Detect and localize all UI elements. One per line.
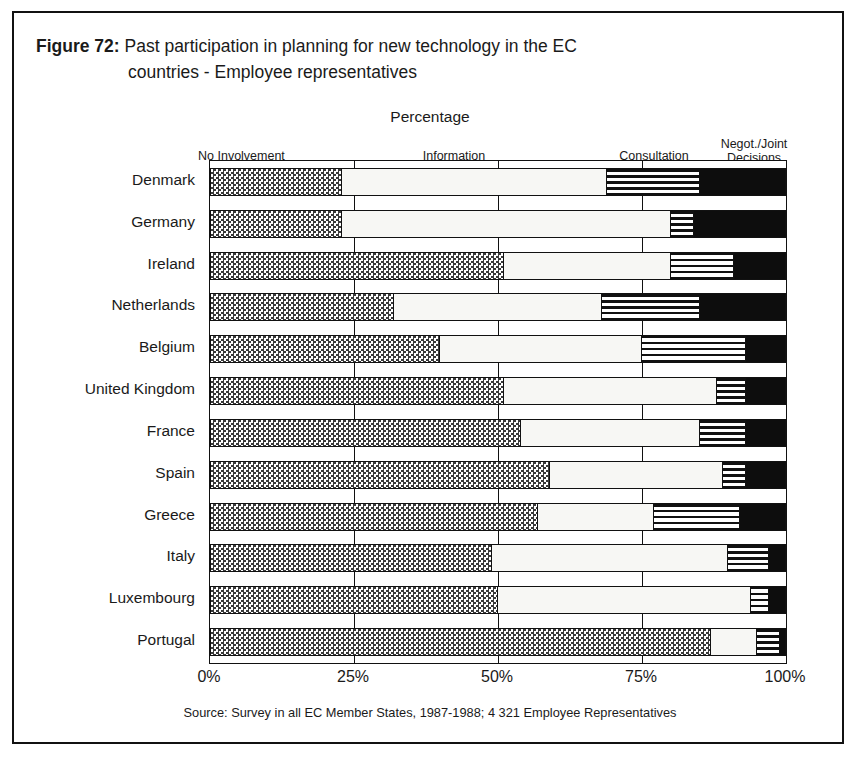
bar-row[interactable] — [210, 377, 786, 405]
segment-information[interactable] — [492, 544, 728, 572]
bar-row[interactable] — [210, 293, 786, 321]
segment-no-involvement[interactable] — [210, 419, 521, 447]
segment-no-involvement[interactable] — [210, 628, 711, 656]
segment-consultation[interactable] — [654, 503, 740, 531]
segment-negot-joint-decisions[interactable] — [746, 419, 786, 447]
segment-information[interactable] — [538, 503, 653, 531]
bar-row[interactable] — [210, 252, 786, 280]
segment-no-involvement[interactable] — [210, 335, 440, 363]
segment-negot-joint-decisions[interactable] — [769, 586, 786, 614]
segment-negot-joint-decisions[interactable] — [780, 628, 786, 656]
segment-consultation[interactable] — [751, 586, 768, 614]
bar-row[interactable] — [210, 335, 786, 363]
segment-negot-joint-decisions[interactable] — [746, 461, 786, 489]
y-axis-label-united-kingdom: United Kingdom — [85, 380, 195, 398]
figure-frame: Figure 72: Past participation in plannin… — [12, 11, 844, 744]
segment-negot-joint-decisions[interactable] — [694, 210, 786, 238]
source-note: Source: Survey in all EC Member States, … — [14, 705, 846, 720]
y-axis-label-france: France — [147, 422, 195, 440]
segment-consultation[interactable] — [757, 628, 780, 656]
segment-information[interactable] — [504, 252, 671, 280]
segment-consultation[interactable] — [728, 544, 768, 572]
bar-row[interactable] — [210, 461, 786, 489]
bar-series-container — [210, 161, 786, 663]
y-axis-label-denmark: Denmark — [132, 171, 195, 189]
segment-negot-joint-decisions[interactable] — [700, 293, 786, 321]
segment-no-involvement[interactable] — [210, 377, 504, 405]
y-axis-label-greece: Greece — [144, 506, 195, 524]
segment-information[interactable] — [711, 628, 757, 656]
bar-row[interactable] — [210, 503, 786, 531]
bar-row[interactable] — [210, 544, 786, 572]
bar-row[interactable] — [210, 419, 786, 447]
bar-row[interactable] — [210, 168, 786, 196]
y-axis-label-germany: Germany — [131, 213, 195, 231]
segment-information[interactable] — [394, 293, 601, 321]
segment-negot-joint-decisions[interactable] — [746, 377, 786, 405]
segment-no-involvement[interactable] — [210, 252, 504, 280]
x-axis-label-100: 100% — [765, 668, 806, 686]
y-axis-label-belgium: Belgium — [139, 338, 195, 356]
segment-information[interactable] — [521, 419, 700, 447]
segment-consultation[interactable] — [723, 461, 746, 489]
segment-negot-joint-decisions[interactable] — [700, 168, 786, 196]
plot-area — [209, 160, 787, 664]
segment-no-involvement[interactable] — [210, 544, 492, 572]
y-axis-label-spain: Spain — [155, 464, 195, 482]
segment-information[interactable] — [504, 377, 717, 405]
x-axis-labels: 0%25%50%75%100% — [209, 668, 785, 694]
segment-consultation[interactable] — [671, 210, 694, 238]
segment-information[interactable] — [440, 335, 642, 363]
x-axis-label-50: 50% — [481, 668, 513, 686]
segment-no-involvement[interactable] — [210, 210, 342, 238]
segment-information[interactable] — [550, 461, 723, 489]
segment-consultation[interactable] — [602, 293, 700, 321]
x-axis-label-0: 0% — [197, 668, 220, 686]
segment-consultation[interactable] — [607, 168, 699, 196]
segment-negot-joint-decisions[interactable] — [734, 252, 786, 280]
segment-consultation[interactable] — [671, 252, 734, 280]
y-axis-label-netherlands: Netherlands — [111, 296, 195, 314]
segment-information[interactable] — [498, 586, 751, 614]
y-axis-label-italy: Italy — [167, 547, 195, 565]
y-axis-labels: DenmarkGermanyIrelandNetherlandsBelgiumU… — [14, 160, 203, 662]
y-axis-label-luxembourg: Luxembourg — [109, 589, 195, 607]
segment-no-involvement[interactable] — [210, 168, 342, 196]
x-axis-label-75: 75% — [625, 668, 657, 686]
chart-plot-wrapper: DenmarkGermanyIrelandNetherlandsBelgiumU… — [14, 13, 846, 746]
segment-no-involvement[interactable] — [210, 503, 538, 531]
segment-consultation[interactable] — [700, 419, 746, 447]
segment-information[interactable] — [342, 168, 607, 196]
bar-row[interactable] — [210, 210, 786, 238]
y-axis-label-ireland: Ireland — [148, 255, 195, 273]
segment-consultation[interactable] — [642, 335, 746, 363]
bar-row[interactable] — [210, 586, 786, 614]
segment-no-involvement[interactable] — [210, 586, 498, 614]
y-axis-label-portugal: Portugal — [137, 631, 195, 649]
segment-information[interactable] — [342, 210, 670, 238]
segment-no-involvement[interactable] — [210, 461, 550, 489]
bar-row[interactable] — [210, 628, 786, 656]
segment-negot-joint-decisions[interactable] — [746, 335, 786, 363]
segment-no-involvement[interactable] — [210, 293, 394, 321]
segment-negot-joint-decisions[interactable] — [769, 544, 786, 572]
segment-consultation[interactable] — [717, 377, 746, 405]
x-axis-label-25: 25% — [337, 668, 369, 686]
segment-negot-joint-decisions[interactable] — [740, 503, 786, 531]
